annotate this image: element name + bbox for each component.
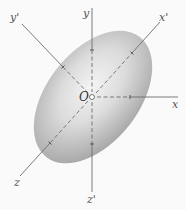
z-axis-label: z — [13, 176, 20, 189]
y-prime-axis-label: y' — [9, 11, 19, 24]
x-axis-label: x — [172, 98, 179, 111]
origin-label: O — [79, 90, 89, 104]
z-axis-line — [20, 143, 50, 176]
ellipsoid-axes-diagram: O y x z x' y' z' — [0, 0, 186, 210]
z-prime-axis-label: z' — [86, 193, 96, 206]
x-prime-axis-label: x' — [159, 11, 168, 24]
y-axis-label: y — [82, 7, 90, 20]
origin-marker — [90, 95, 95, 100]
y-prime-axis-line — [22, 24, 63, 67]
